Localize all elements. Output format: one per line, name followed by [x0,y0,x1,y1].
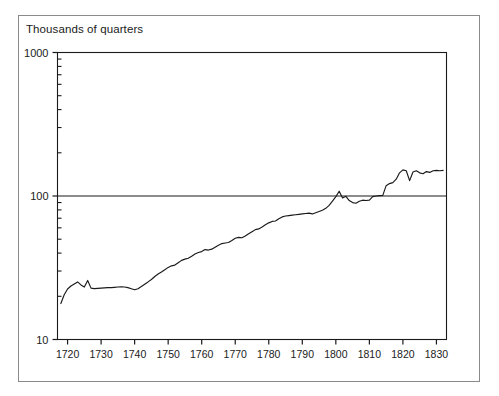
x-tick-label: 1770 [224,348,248,360]
series-line-thousands-of-quarters [61,170,443,304]
x-axis-ticks [68,340,437,345]
y-tick-label: 1000 [24,47,48,59]
x-tick-label: 1720 [56,348,80,360]
x-tick-label: 1730 [89,348,113,360]
x-tick-label: 1760 [190,348,214,360]
data-series-line [61,170,443,304]
x-tick-label: 1830 [425,348,449,360]
x-tick-label: 1780 [257,348,281,360]
x-axis-tick-labels: 1720173017401750176017701780179018001810… [56,348,448,360]
y-tick-label: 10 [36,334,48,346]
x-tick-label: 1800 [324,348,348,360]
x-tick-label: 1810 [358,348,382,360]
y-axis-tick-labels: 100010010 [24,47,48,346]
y-axis-minor-ticks [58,59,62,296]
y-tick-label: 100 [30,190,48,202]
x-tick-label: 1740 [123,348,147,360]
chart-figure: Thousands of quarters 100010010 17201730… [0,0,499,396]
x-tick-label: 1820 [391,348,415,360]
x-tick-label: 1750 [156,348,180,360]
x-tick-label: 1790 [291,348,315,360]
plot-canvas: 100010010 172017301740175017601770178017… [0,0,499,396]
y-axis-major-ticks [53,53,58,340]
